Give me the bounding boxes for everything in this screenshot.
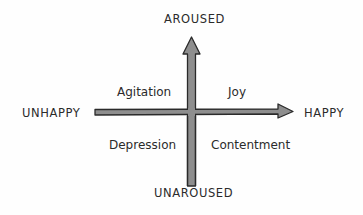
axis-label-unhappy: UNHAPPY — [22, 106, 80, 120]
quadrant-label-depression: Depression — [109, 138, 176, 152]
quadrant-label-joy: Joy — [228, 85, 246, 99]
axis-label-unaroused: UNAROUSED — [154, 186, 233, 200]
quadrant-label-agitation: Agitation — [117, 85, 171, 99]
emotion-quadrant-diagram: AROUSED UNAROUSED UNHAPPY HAPPY Agitatio… — [0, 0, 363, 215]
quadrant-label-contentment: Contentment — [211, 138, 290, 152]
axis-label-aroused: AROUSED — [164, 12, 225, 26]
axis-label-happy: HAPPY — [304, 106, 344, 120]
